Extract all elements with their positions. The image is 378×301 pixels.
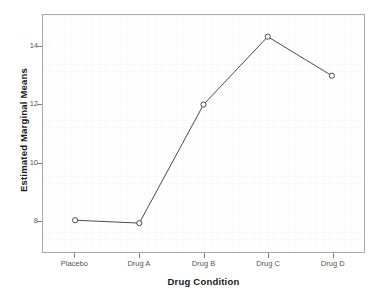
x-tick-label: Drug A xyxy=(109,259,169,269)
data-point-marker xyxy=(201,102,206,107)
x-tick-mark xyxy=(268,253,269,258)
data-point-marker xyxy=(265,34,270,39)
data-point-marker xyxy=(73,218,78,223)
x-tick-mark xyxy=(333,253,334,258)
y-tick-label: 8 xyxy=(24,217,38,225)
y-tick-mark xyxy=(37,163,42,164)
x-tick-label: Drug D xyxy=(303,259,363,269)
x-tick-label: Drug B xyxy=(174,259,234,269)
plot-area xyxy=(42,14,365,253)
x-axis-title: Drug Condition xyxy=(42,276,365,287)
y-tick-mark xyxy=(37,104,42,105)
data-series-line xyxy=(43,15,364,252)
x-tick-mark xyxy=(204,253,205,258)
y-tick-mark xyxy=(37,46,42,47)
data-point-marker xyxy=(137,221,142,226)
data-point-marker xyxy=(329,73,334,78)
y-axis-tick-labels: 8101214 xyxy=(24,0,38,301)
x-tick-label: Placebo xyxy=(44,259,104,269)
series-polyline xyxy=(75,37,332,223)
y-tick-label: 10 xyxy=(24,159,38,167)
y-tick-label: 12 xyxy=(24,100,38,108)
x-tick-label: Drug C xyxy=(238,259,298,269)
y-tick-label: 14 xyxy=(24,42,38,50)
x-tick-mark xyxy=(74,253,75,258)
x-tick-mark xyxy=(139,253,140,258)
y-tick-mark xyxy=(37,221,42,222)
chart-container: Estimated Marginal Means 8101214 Drug Co… xyxy=(0,0,378,301)
